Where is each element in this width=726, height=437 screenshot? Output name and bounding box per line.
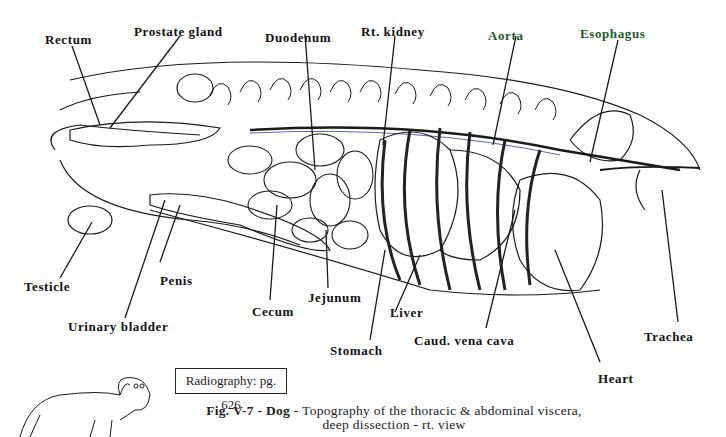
label-rt-kidney: Rt. kidney [361,24,425,40]
figure-id: Fig. V-7 [206,403,254,418]
figure-species: Dog [266,403,290,418]
label-heart: Heart [598,371,633,387]
label-aorta: Aorta [488,28,524,44]
label-rectum: Rectum [45,32,92,48]
radiography-reference-box: Radiography: pg. 626 [175,368,287,394]
label-jejunum: Jejunum [308,290,361,306]
label-testicle: Testicle [24,279,70,295]
label-duodenum: Duodenum [265,30,331,46]
label-prostate-gland: Prostate gland [134,24,223,40]
label-trachea: Trachea [644,329,693,345]
label-caud-vena-cava: Caud. vena cava [414,333,514,349]
anatomy-figure: Rectum Prostate gland Duodenum Rt. kidne… [0,0,726,437]
label-penis: Penis [160,273,193,289]
label-esophagus: Esophagus [580,26,645,42]
caption-line-1: Topography of the thoracic & abdominal v… [302,403,582,418]
dog-sketch [20,378,150,437]
label-liver: Liver [390,305,423,321]
label-stomach: Stomach [330,343,383,359]
label-urinary-bladder: Urinary bladder [68,319,168,335]
label-cecum: Cecum [252,304,294,320]
caption-line-2: deep dissection - rt. view [322,417,465,432]
figure-caption: Fig. V-7 - Dog - Topography of the thora… [164,404,624,432]
